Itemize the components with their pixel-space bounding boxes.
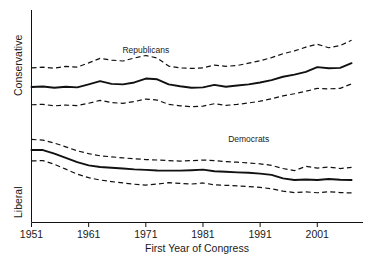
y-axis-label-conservative: Conservative [12,35,24,96]
x-tick-label: 1991 [248,228,272,240]
series-line [32,150,352,180]
series-annotation-label: Democrats [228,134,269,144]
x-axis-group: 195119611971198119912001 First Year of C… [20,223,363,255]
series-line [32,63,352,88]
x-tick-label: 1951 [20,228,44,240]
y-axis-group: Conservative Liberal [12,10,32,222]
series-annotation-label: Republicans [122,45,169,55]
chart-canvas: Conservative Liberal 1951196119711981199… [0,0,373,260]
series-line [32,40,352,68]
series-annotations: RepublicansDemocrats [122,45,269,144]
figure-container: Conservative Liberal 1951196119711981199… [0,0,373,260]
x-tick-label: 1971 [134,228,158,240]
x-axis-title: First Year of Congress [145,242,249,254]
x-tick-label: 2001 [306,228,330,240]
x-axis-ticks: 195119611971198119912001 [20,223,329,241]
x-tick-label: 1981 [191,228,215,240]
series-line [32,139,352,170]
series-line [32,161,352,193]
x-tick-label: 1961 [77,228,101,240]
y-axis-label-liberal: Liberal [12,186,24,218]
data-series-group [32,40,352,193]
